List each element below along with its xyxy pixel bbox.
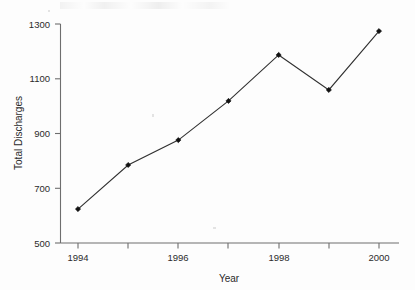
x-axis-title: Year <box>219 273 240 284</box>
y-tick-label-700: 700 <box>34 183 50 194</box>
y-tick-label-900: 900 <box>34 128 50 139</box>
x-tick-label-2000: 2000 <box>368 252 389 263</box>
x-tick-label-1996: 1996 <box>167 252 188 263</box>
x-tick-label-1994: 1994 <box>67 252 88 263</box>
series-markers <box>75 29 381 212</box>
y-tick-label-1100: 1100 <box>30 73 50 84</box>
y-tick-label-500: 500 <box>34 238 50 249</box>
y-axis-title: Total Discharges <box>13 96 24 170</box>
line-chart: 500 700 900 1100 1300 1994 1996 1998 200… <box>0 0 415 290</box>
x-tick-label-1998: 1998 <box>268 252 289 263</box>
y-tick-label-1300: 1300 <box>29 19 50 30</box>
plot-area: 500 700 900 1100 1300 1994 1996 1998 200… <box>0 0 415 290</box>
data-series <box>75 29 381 212</box>
series-line-total-discharges <box>78 31 379 209</box>
